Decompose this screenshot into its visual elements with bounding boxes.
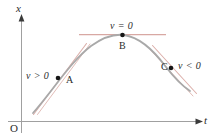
x-axis bbox=[8, 118, 203, 124]
point-dot-b bbox=[120, 33, 125, 38]
velocity-annotation-b: v = 0 bbox=[110, 21, 133, 31]
position-curve bbox=[33, 35, 190, 113]
point-dot-c bbox=[169, 66, 174, 71]
y-axis-label: x bbox=[16, 3, 21, 14]
point-dot-a bbox=[56, 76, 61, 81]
point-label-b: B bbox=[119, 41, 126, 51]
origin-label: O bbox=[10, 123, 18, 134]
x-axis-label: t bbox=[204, 115, 207, 126]
y-axis bbox=[19, 14, 25, 133]
point-label-a: A bbox=[66, 75, 73, 85]
figure-container: x t O v > 0 v = 0 v < 0 A B C bbox=[0, 0, 214, 139]
velocity-annotation-c: v < 0 bbox=[178, 61, 201, 71]
velocity-annotation-a: v > 0 bbox=[26, 71, 49, 81]
point-label-c: C bbox=[161, 62, 168, 72]
